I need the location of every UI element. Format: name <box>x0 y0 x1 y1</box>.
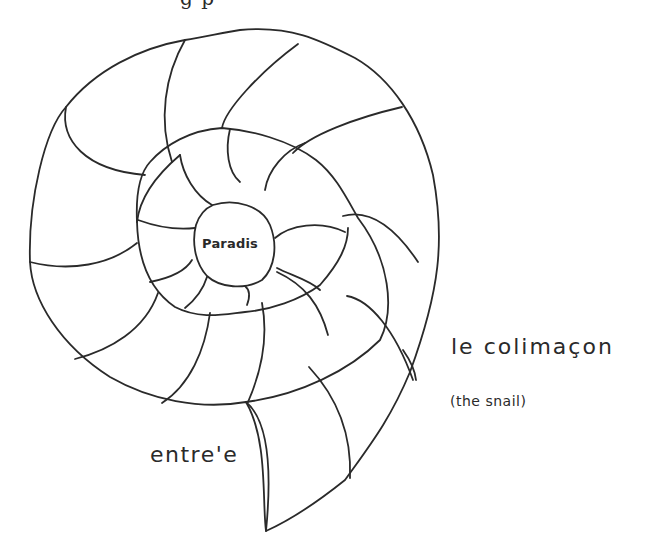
middle-divider-9 <box>277 268 320 290</box>
middle-divider-7 <box>245 286 249 305</box>
spiral-drawing <box>0 0 661 556</box>
outer-divider-1 <box>165 40 185 162</box>
middle-divider-2 <box>228 129 240 182</box>
middle-divider-8 <box>275 225 345 238</box>
middle-divider-6 <box>185 277 207 308</box>
outer-divider-10 <box>343 214 418 262</box>
inner-whorl <box>137 155 180 222</box>
translation-label: (the snail) <box>450 393 526 409</box>
outer-divider-8 <box>248 303 264 402</box>
outer-divider-5 <box>30 243 137 266</box>
outer-divider-2 <box>222 44 298 128</box>
outer-divider-3 <box>293 107 402 153</box>
outer-divider-6 <box>75 293 158 359</box>
middle-divider-4 <box>138 220 195 229</box>
outer-divider-4 <box>65 107 145 175</box>
outer-divider-7 <box>162 313 210 403</box>
title-label: le colimaçon <box>451 334 614 359</box>
cropped-heading-text: g p <box>180 0 215 10</box>
middle-whorl <box>137 128 388 402</box>
middle-divider-5 <box>150 260 192 282</box>
center-label: Paradis <box>202 236 258 251</box>
entrance-label: entre'e <box>150 442 238 467</box>
middle-divider-1 <box>180 155 212 205</box>
